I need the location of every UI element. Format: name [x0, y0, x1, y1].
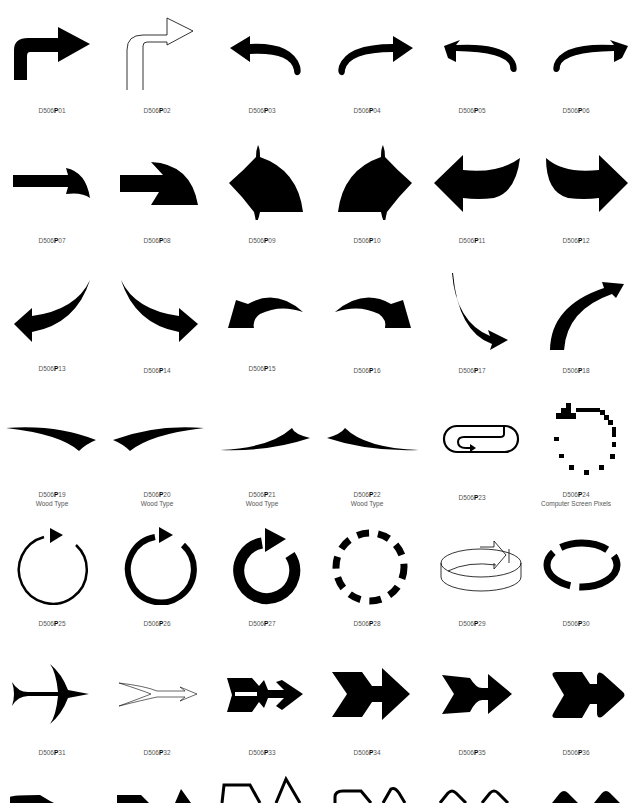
circle-arrow-thick-icon	[210, 515, 314, 605]
item-code: D506P22Wood Type	[315, 490, 419, 508]
item-code: D506P14	[105, 366, 209, 375]
item-code: D506P10	[315, 236, 419, 245]
swoosh-arrow-down-left-icon	[0, 260, 104, 350]
item-code: D506P16	[315, 366, 419, 375]
item-code: D506P18	[524, 366, 628, 375]
arc-arrow-left-icon	[210, 260, 314, 350]
hook-arrow-left-thin-icon	[420, 0, 524, 90]
swoosh-arrow-down-right-icon	[105, 260, 209, 350]
item-code: D506P24Computer Screen Pixels	[524, 490, 628, 508]
curved-arrow-right-icon	[524, 130, 628, 220]
fletched-arrow-icon	[0, 640, 104, 730]
wood-type-swash-left-icon	[105, 390, 209, 480]
item-code: D506P36	[524, 748, 628, 757]
item-code: D506P05	[420, 106, 524, 115]
arrow-right-wing-icon	[315, 130, 419, 220]
catalog-item-partial	[105, 775, 209, 803]
item-code: D506P26	[105, 619, 209, 628]
wood-type-swash-right-icon	[0, 390, 104, 480]
arc-arrow-right-icon	[315, 260, 419, 350]
item-code: D506P15	[210, 364, 314, 373]
item-code: D506P11	[420, 236, 524, 245]
item-code: D506P33	[210, 748, 314, 757]
catalog-item-partial	[0, 775, 104, 803]
item-code: D506P04	[315, 106, 419, 115]
circle-arrow-medium-icon	[105, 515, 209, 605]
item-code: D506P09	[210, 236, 314, 245]
chevron-tail-arrow-rounded-icon	[524, 640, 628, 730]
catalog-item-partial	[210, 775, 314, 803]
item-code: D506P01	[0, 106, 104, 115]
arc-arrow-up-right-icon	[524, 260, 628, 350]
loop-arrow-icon	[420, 390, 524, 480]
item-code: D506P03	[210, 106, 314, 115]
hook-arrow-right-icon	[315, 0, 419, 90]
outline-bent-arrow-icon	[105, 0, 209, 90]
3d-ring-arrow-icon	[420, 515, 524, 605]
pixel-circle-arrow-icon	[524, 390, 628, 480]
item-code: D506P20Wood Type	[105, 490, 209, 508]
catalog-item-partial	[524, 775, 628, 803]
item-code: D506P25	[0, 619, 104, 628]
wood-type-swash-up-icon	[210, 390, 314, 480]
item-code: D506P13	[0, 364, 104, 373]
item-code: D506P12	[524, 236, 628, 245]
outline-fletched-arrow-icon	[105, 640, 209, 730]
item-code: D506P19Wood Type	[0, 490, 104, 508]
curved-arrow-left-icon	[420, 130, 524, 220]
hook-arrow-left-icon	[210, 0, 314, 90]
arrow-left-wing-icon	[210, 130, 314, 220]
item-code: D506P27	[210, 619, 314, 628]
item-code: D506P06	[524, 106, 628, 115]
item-code: D506P21Wood Type	[210, 490, 314, 508]
item-code: D506P31	[0, 748, 104, 757]
item-code: D506P07	[0, 236, 104, 245]
circle-arrow-thin-icon	[0, 515, 104, 605]
wood-type-swash-down-icon	[315, 390, 419, 480]
item-code: D506P02	[105, 106, 209, 115]
catalog-item-partial	[315, 775, 419, 803]
hook-arrow-right-thin-icon	[524, 0, 628, 90]
item-code: D506P30	[524, 619, 628, 628]
item-code: D506P08	[105, 236, 209, 245]
item-code: D506P35	[420, 748, 524, 757]
dashed-circle-arrows-icon	[315, 515, 419, 605]
item-code: D506P34	[315, 748, 419, 757]
bent-arrow-up-right-icon	[0, 0, 104, 90]
item-code: D506P32	[105, 748, 209, 757]
thin-curve-arrow-down-icon	[420, 260, 524, 350]
feathered-arrow-icon	[210, 640, 314, 730]
chevron-tail-arrow-narrow-icon	[420, 640, 524, 730]
chevron-tail-arrow-icon	[315, 640, 419, 730]
item-code: D506P23	[420, 493, 524, 502]
catalog-item-partial	[420, 775, 524, 803]
arrow-curved-head-small-icon	[0, 130, 104, 220]
item-code: D506P17	[420, 366, 524, 375]
item-code: D506P29	[420, 619, 524, 628]
item-code: D506P28	[315, 619, 419, 628]
arrow-curved-head-large-icon	[105, 130, 209, 220]
split-ring-arrows-icon	[524, 515, 628, 605]
